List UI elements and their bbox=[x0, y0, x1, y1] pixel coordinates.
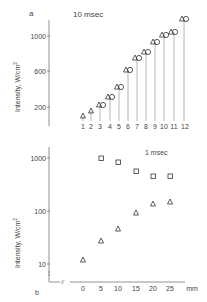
panel-a-ytick-600: 600 bbox=[34, 68, 46, 75]
svg-text:Intensity, W/cm2: Intensity, W/cm2 bbox=[12, 62, 22, 112]
svg-text:3: 3 bbox=[98, 123, 102, 130]
svg-text:8: 8 bbox=[144, 123, 148, 130]
panel-b-x-ticks: 0 5 10 15 20 25 mm bbox=[81, 285, 198, 292]
square-marker bbox=[99, 156, 104, 161]
panel-b-ytick-100: 100 bbox=[34, 208, 46, 215]
square-marker bbox=[151, 174, 156, 179]
svg-text:15: 15 bbox=[132, 285, 140, 292]
svg-text:9: 9 bbox=[153, 123, 157, 130]
svg-text:6: 6 bbox=[126, 123, 130, 130]
figure: a 10 msec 1000 600 200 Intensity, W/cm2 bbox=[0, 0, 207, 302]
panel-a-label: a bbox=[29, 9, 34, 18]
svg-text:10: 10 bbox=[160, 123, 168, 130]
triangle-marker bbox=[134, 210, 139, 215]
panel-a-title: 10 msec bbox=[73, 10, 103, 19]
panel-b-y-ticks: 1000 100 10 bbox=[30, 155, 50, 268]
circle-marker bbox=[136, 55, 141, 60]
triangle-marker bbox=[99, 238, 104, 243]
axis-break-mark: // bbox=[60, 279, 64, 285]
svg-text:7: 7 bbox=[135, 123, 139, 130]
panel-a: a 10 msec 1000 600 200 Intensity, W/cm2 bbox=[12, 9, 189, 130]
panel-b-title: 1 msec bbox=[145, 149, 168, 156]
circle-marker bbox=[100, 102, 105, 107]
svg-text:2: 2 bbox=[89, 123, 93, 130]
panel-a-ytick-1000: 1000 bbox=[30, 33, 46, 40]
triangle-marker bbox=[168, 199, 173, 204]
triangle-marker bbox=[151, 201, 156, 206]
svg-text:10: 10 bbox=[114, 285, 122, 292]
circle-marker bbox=[183, 16, 188, 21]
svg-text:25: 25 bbox=[166, 285, 174, 292]
panel-a-x-ticks: 1 2 3 4 5 6 7 8 9 10 11 12 bbox=[81, 123, 189, 130]
triangle-marker bbox=[116, 226, 121, 231]
svg-text:4: 4 bbox=[108, 123, 112, 130]
svg-text:0: 0 bbox=[81, 285, 85, 292]
panel-a-ytick-200: 200 bbox=[34, 104, 46, 111]
panel-b-x-unit: mm bbox=[186, 285, 198, 292]
panel-b-ytick-10: 10 bbox=[38, 261, 46, 268]
svg-text:5: 5 bbox=[117, 123, 121, 130]
panel-a-ylabel: Intensity, W/cm2 bbox=[12, 62, 22, 112]
svg-text:1: 1 bbox=[81, 123, 85, 130]
panel-a-y-ticks: 1000 600 200 bbox=[30, 33, 50, 111]
svg-text:Intensity, W/cm2: Intensity, W/cm2 bbox=[12, 218, 22, 268]
panel-a-markers bbox=[81, 16, 189, 118]
svg-text:12: 12 bbox=[181, 123, 189, 130]
svg-text:20: 20 bbox=[149, 285, 157, 292]
panel-b-ytick-1000: 1000 bbox=[30, 155, 46, 162]
svg-text:5: 5 bbox=[99, 285, 103, 292]
panel-b-markers bbox=[81, 156, 173, 262]
panel-b-ylabel: Intensity, W/cm2 bbox=[12, 218, 22, 268]
svg-text:11: 11 bbox=[170, 123, 177, 130]
square-marker bbox=[134, 169, 139, 174]
circle-marker bbox=[172, 29, 177, 34]
triangle-marker bbox=[81, 257, 86, 262]
panel-b-label: b bbox=[35, 289, 39, 296]
square-marker bbox=[168, 174, 173, 179]
square-marker bbox=[116, 160, 121, 165]
panel-b: 1 msec // 1000 100 10 Intensity, W/cm2 bbox=[12, 147, 198, 296]
